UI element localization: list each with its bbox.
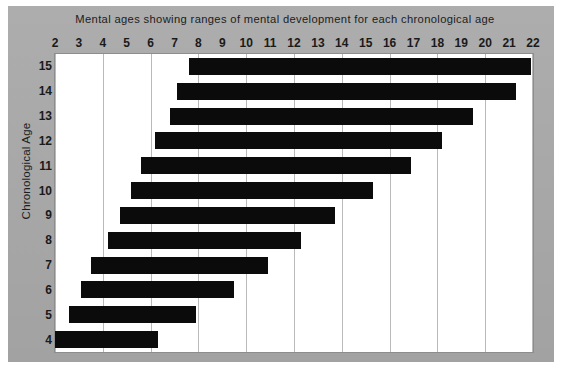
y-axis-tick-label: 10 <box>39 184 52 198</box>
x-axis-tick-label: 17 <box>401 36 427 50</box>
range-bar <box>189 58 531 75</box>
x-axis-tick-label: 19 <box>448 36 474 50</box>
x-axis-tick-label: 22 <box>520 36 546 50</box>
range-bar <box>155 132 442 149</box>
x-axis-tick-label: 8 <box>185 36 211 50</box>
range-bar <box>141 157 411 174</box>
range-bar <box>131 182 372 199</box>
y-axis-tick-label: 5 <box>45 308 52 322</box>
y-axis-tick-label: 9 <box>45 208 52 222</box>
range-bar <box>177 83 516 100</box>
range-bar <box>91 257 268 274</box>
x-axis-tick-label: 14 <box>329 36 355 50</box>
x-axis-tick-label: 21 <box>496 36 522 50</box>
y-axis-tick-label: 11 <box>39 159 52 173</box>
y-axis-tick-label: 7 <box>45 258 52 272</box>
range-bar <box>120 207 335 224</box>
gridline <box>55 54 56 352</box>
chart-title: Mental ages showing ranges of mental dev… <box>30 13 540 25</box>
x-axis-tick-label: 16 <box>377 36 403 50</box>
range-bar <box>108 232 302 249</box>
range-bar <box>69 306 196 323</box>
range-bar <box>81 281 234 298</box>
y-axis-tick-label: 13 <box>39 109 52 123</box>
x-axis-tick-label: 13 <box>305 36 331 50</box>
y-axis-tick-label: 6 <box>45 283 52 297</box>
x-axis-tick-label: 12 <box>281 36 307 50</box>
x-axis-tick-label: 15 <box>353 36 379 50</box>
y-axis-tick-label: 8 <box>45 233 52 247</box>
gridline <box>532 54 533 352</box>
x-axis-tick-label: 7 <box>162 36 188 50</box>
x-axis-tick-label: 3 <box>66 36 92 50</box>
x-axis-tick-label: 4 <box>90 36 116 50</box>
x-axis-tick-label: 6 <box>138 36 164 50</box>
y-axis-tick-labels: 151413121110987654 <box>24 0 52 368</box>
x-axis-tick-label: 11 <box>257 36 283 50</box>
y-axis-tick-label: 15 <box>39 59 52 73</box>
x-axis-tick-label: 9 <box>209 36 235 50</box>
y-axis-tick-label: 4 <box>45 333 52 347</box>
x-axis-tick-label: 20 <box>472 36 498 50</box>
y-axis-tick-label: 12 <box>39 134 52 148</box>
range-bar <box>170 108 474 125</box>
x-axis-tick-label: 10 <box>233 36 259 50</box>
chart-page: Mental ages showing ranges of mental dev… <box>0 0 562 368</box>
y-axis-tick-label: 14 <box>39 84 52 98</box>
plot-area <box>55 54 533 352</box>
x-axis-tick-labels: 2345678910111213141516171819202122 <box>0 36 562 52</box>
range-bar <box>55 331 158 348</box>
x-axis-tick-label: 18 <box>424 36 450 50</box>
x-axis-tick-label: 5 <box>114 36 140 50</box>
